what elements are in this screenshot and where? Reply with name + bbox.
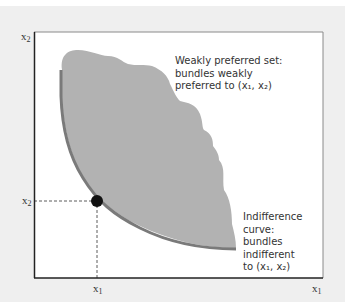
x2-tick-label: x2 — [22, 194, 32, 210]
x1-tick-label: x1 — [93, 282, 103, 298]
annotation-line: Indifference — [243, 211, 303, 224]
annotation-line: indifferent — [243, 249, 303, 262]
annotation-line: preferred to (x₁, x₂) — [175, 80, 282, 93]
indifference-diagram — [0, 0, 356, 308]
indifference-annotation: Indifference curve: bundles indifferent … — [243, 211, 303, 274]
annotation-line: to (x₁, x₂) — [243, 261, 303, 274]
x-axis-label: x1 — [312, 282, 322, 298]
annotation-line: curve: — [243, 224, 303, 237]
bundle-point — [91, 195, 103, 207]
annotation-line: Weakly preferred set: — [175, 55, 282, 68]
annotation-line: bundles weakly — [175, 68, 282, 81]
annotation-line: bundles — [243, 236, 303, 249]
weakly-preferred-annotation: Weakly preferred set: bundles weakly pre… — [175, 55, 282, 93]
y-axis-label: x2 — [21, 30, 31, 46]
